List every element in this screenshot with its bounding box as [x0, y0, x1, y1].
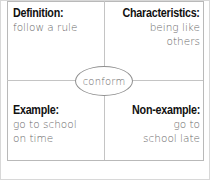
center-word: conform — [83, 76, 126, 87]
center-word-ellipse: conform — [75, 66, 133, 96]
characteristics-line-2: others — [110, 34, 200, 48]
quadrant-characteristics: Characteristics: being like others — [110, 6, 200, 48]
quadrant-non-example: Non-example: go to school late — [121, 103, 200, 145]
example-heading: Example: — [13, 103, 68, 117]
example-line-1: go to school — [13, 117, 77, 131]
non-example-line-1: go to — [121, 117, 200, 131]
quadrant-definition: Definition: follow a rule — [13, 6, 77, 34]
characteristics-heading: Characteristics: — [123, 6, 200, 20]
non-example-heading: Non-example: — [132, 103, 200, 117]
quadrant-example: Example: go to school on time — [13, 103, 77, 145]
definition-line: follow a rule — [13, 20, 77, 34]
characteristics-line-1: being like — [110, 20, 200, 34]
definition-heading: Definition: — [13, 6, 68, 20]
non-example-line-2: school late — [121, 131, 200, 145]
example-line-2: on time — [13, 131, 77, 145]
